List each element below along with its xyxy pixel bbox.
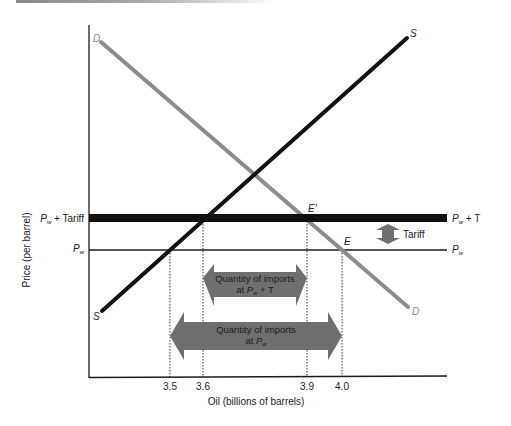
tariff-arrow-label: Tariff xyxy=(403,229,425,240)
point-e-prime: E' xyxy=(308,203,318,214)
world-price-right-label: Pw xyxy=(452,244,464,256)
x-tick-3-5: 3.5 xyxy=(163,381,177,392)
tariff-diagram: Price (per barrel) Pw + Tariff Pw Pw + T… xyxy=(0,0,511,426)
quantity-guides xyxy=(170,218,342,377)
supply-label-bottom: S xyxy=(93,311,100,322)
imports-with-tariff-line1: Quantity of imports xyxy=(215,273,295,284)
imports-with-tariff-arrow-icon xyxy=(203,264,307,306)
demand-label-bottom: D xyxy=(412,306,419,317)
x-tick-3-6: 3.6 xyxy=(196,381,210,392)
tariff-arrow-icon xyxy=(376,224,400,244)
supply-label-top: S xyxy=(410,28,417,39)
supply-curve xyxy=(102,38,407,311)
x-axis-label: Oil (billions of barrels) xyxy=(208,396,305,407)
tariff-price-left-label: Pw + Tariff xyxy=(40,213,84,225)
imports-free-trade-line1: Quantity of imports xyxy=(216,324,296,335)
tariff-price-right-label: Pw + T xyxy=(452,213,480,225)
x-tick-4-0: 4.0 xyxy=(335,381,349,392)
world-price-left-label: Pw xyxy=(73,243,85,255)
x-tick-3-9: 3.9 xyxy=(300,381,314,392)
x-axis xyxy=(89,376,447,378)
point-e: E xyxy=(344,236,351,247)
y-axis-label: Price (per barrel) xyxy=(21,212,32,287)
tariff-price-line xyxy=(89,214,447,222)
demand-label-top: D xyxy=(93,33,100,44)
